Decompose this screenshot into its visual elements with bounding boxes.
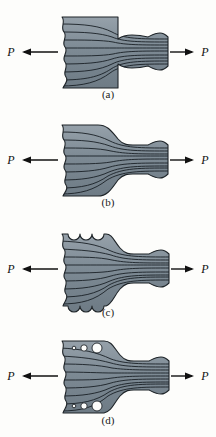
left-load-arrow-a (22, 48, 58, 55)
left-load-label-b: P (6, 153, 15, 167)
bar-body-b (62, 125, 168, 196)
hole-top-medium (81, 345, 87, 351)
panel-d: P P (d) (0, 326, 216, 437)
left-load-arrow-c (22, 265, 58, 272)
panel-d-caption: (d) (0, 414, 216, 426)
right-load-label-a: P (200, 45, 209, 59)
right-load-label-d: P (200, 369, 209, 383)
hole-bottom-medium (81, 403, 87, 409)
right-load-label-c: P (200, 262, 209, 276)
right-load-arrow-b (170, 156, 194, 163)
right-load-arrow-a (170, 48, 194, 55)
panel-c: P P (c) (0, 216, 216, 324)
left-load-label-d: P (6, 369, 15, 383)
left-load-arrow-b (22, 156, 58, 163)
left-load-arrow-d (22, 372, 58, 379)
left-load-label-c: P (6, 262, 15, 276)
left-load-label-a: P (6, 45, 15, 59)
panel-c-caption: (c) (0, 306, 216, 318)
panel-b-caption: (b) (0, 196, 216, 208)
bar-body-d (62, 341, 169, 413)
hole-top-large (92, 343, 102, 353)
right-load-label-b: P (200, 153, 209, 167)
right-load-arrow-d (171, 372, 194, 379)
hole-top-small (72, 346, 76, 350)
panel-a: P P (a) (0, 0, 216, 104)
panel-b: P P (b) (0, 108, 216, 212)
hole-bottom-small (72, 404, 76, 408)
panel-a-caption: (a) (0, 88, 216, 100)
hole-bottom-large (92, 401, 102, 411)
bar-body-a (62, 17, 168, 88)
right-load-arrow-c (171, 265, 194, 272)
stress-trajectory-figure: P P (a) (0, 0, 216, 437)
